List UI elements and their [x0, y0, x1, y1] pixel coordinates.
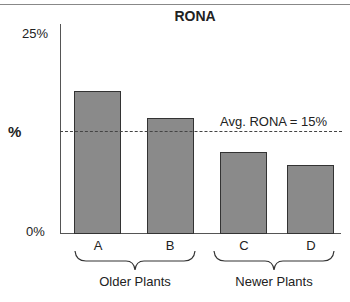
- group-newer-plants: Newer Plants: [224, 274, 324, 289]
- group-older-plants: Older Plants: [85, 274, 185, 289]
- group-braces: [0, 0, 350, 302]
